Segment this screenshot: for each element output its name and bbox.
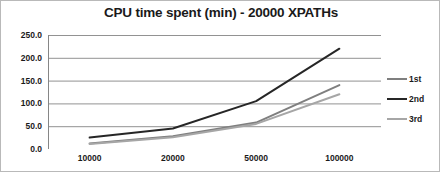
y-axis: 0.050.0100.0150.0200.0250.0	[1, 29, 45, 155]
y-axis-tick-label: 100.0	[21, 98, 42, 108]
y-axis-tick-label: 50.0	[25, 121, 42, 131]
chart-container: CPU time spent (min) - 20000 XPATHs 0.05…	[0, 0, 440, 172]
y-axis-tick-label: 200.0	[21, 53, 42, 63]
x-axis: 100002000050000100000	[48, 153, 381, 169]
chart-legend: 1st2nd3rd	[387, 69, 439, 129]
y-axis-tick-label: 0.0	[30, 144, 42, 154]
legend-label: 3rd	[409, 115, 422, 124]
series-line-2nd	[90, 49, 340, 138]
legend-swatch-icon	[387, 78, 407, 80]
legend-item-2nd[interactable]: 2nd	[387, 89, 439, 109]
line-chart-svg	[48, 35, 381, 149]
legend-swatch-icon	[387, 118, 407, 120]
chart-title: CPU time spent (min) - 20000 XPATHs	[1, 5, 440, 20]
y-axis-tick-label: 250.0	[21, 30, 42, 40]
legend-label: 2nd	[409, 95, 424, 104]
y-axis-tick-label: 150.0	[21, 76, 42, 86]
series-lines	[90, 49, 340, 144]
x-axis-tick-label: 10000	[78, 153, 102, 163]
legend-swatch-icon	[387, 98, 407, 100]
gridlines	[48, 36, 381, 150]
legend-item-1st[interactable]: 1st	[387, 69, 439, 89]
legend-item-3rd[interactable]: 3rd	[387, 109, 439, 129]
legend-label: 1st	[409, 75, 421, 84]
x-axis-tick-label: 100000	[325, 153, 353, 163]
x-axis-tick-label: 50000	[244, 153, 268, 163]
plot-area	[48, 35, 381, 149]
x-axis-tick-label: 20000	[161, 153, 185, 163]
